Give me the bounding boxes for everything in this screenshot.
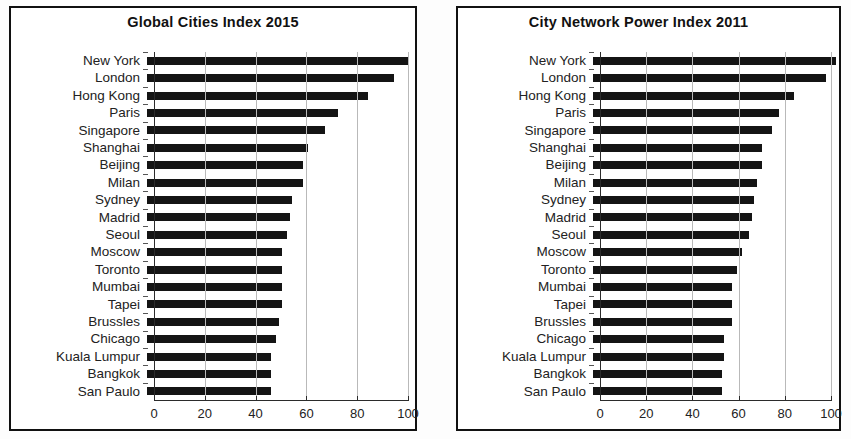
bar — [147, 161, 303, 169]
x-tick-mark — [831, 396, 832, 401]
bar-row: Bangkok — [10, 365, 416, 382]
category-label: Paris — [456, 106, 593, 120]
bar-row: Brussles — [10, 313, 416, 330]
bar-track — [593, 348, 841, 365]
bar — [593, 161, 762, 169]
bar — [147, 266, 282, 274]
y-tick-mark — [143, 243, 148, 244]
bar-row: Madrid — [456, 209, 841, 226]
y-tick-mark — [143, 313, 148, 314]
bar-row: Hong Kong — [10, 87, 416, 104]
bar — [147, 387, 271, 395]
bar — [593, 196, 754, 204]
bar-track — [593, 191, 841, 208]
bar-row: Singapore — [10, 122, 416, 139]
category-label: Madrid — [10, 211, 147, 225]
bar — [147, 370, 271, 378]
x-tick-labels: 020406080100 — [600, 406, 831, 426]
bar — [593, 387, 722, 395]
x-axis-line — [154, 400, 408, 401]
bar-row: Kuala Lumpur — [456, 348, 841, 365]
bar-track — [593, 261, 841, 278]
bar-track — [593, 383, 841, 400]
y-tick-mark — [143, 278, 148, 279]
x-tick-mark — [306, 396, 307, 401]
y-tick-mark — [589, 52, 594, 53]
x-tick-mark — [692, 396, 693, 401]
y-tick-mark — [589, 87, 594, 88]
y-tick-mark — [589, 174, 594, 175]
bar — [593, 109, 779, 117]
y-tick-mark — [589, 139, 594, 140]
x-tick-mark — [357, 396, 358, 401]
category-label: Hong Kong — [456, 89, 593, 103]
chart-title: City Network Power Index 2011 — [426, 14, 851, 30]
bar-track — [593, 87, 841, 104]
bar-row: Milan — [456, 174, 841, 191]
chart-panel-city-network-power-index: City Network Power Index 2011 New YorkLo… — [426, 0, 851, 439]
bar — [593, 126, 772, 134]
bar-row: Beijing — [456, 156, 841, 173]
category-label: Mumbai — [456, 280, 593, 294]
category-label: Chicago — [10, 332, 147, 346]
bar-row: Brussles — [456, 313, 841, 330]
bar — [147, 196, 292, 204]
bar-track — [147, 139, 416, 156]
bar — [147, 300, 282, 308]
category-label: Toronto — [10, 263, 147, 277]
y-tick-mark — [143, 331, 148, 332]
y-tick-mark — [143, 365, 148, 366]
bar — [593, 144, 762, 152]
bar-track — [147, 243, 416, 260]
bar-track — [593, 156, 841, 173]
bar — [593, 57, 836, 65]
bar — [147, 92, 368, 100]
x-tick-label: 40 — [248, 406, 262, 421]
y-tick-mark — [143, 296, 148, 297]
bar-track — [593, 209, 841, 226]
bar-row: San Paulo — [10, 383, 416, 400]
category-label: Seoul — [10, 228, 147, 242]
bar-rows: New YorkLondonHong KongParisSingaporeSha… — [456, 52, 841, 400]
bar-track — [147, 122, 416, 139]
bar-row: Mumbai — [10, 278, 416, 295]
y-tick-mark — [589, 69, 594, 70]
category-label: Singapore — [456, 124, 593, 138]
x-tick-mark — [600, 396, 601, 401]
bar — [147, 248, 282, 256]
bar-track — [147, 278, 416, 295]
bar-row: Tapei — [10, 296, 416, 313]
y-tick-mark — [589, 383, 594, 384]
category-label: Paris — [10, 106, 147, 120]
bar-row: Singapore — [456, 122, 841, 139]
bar-row: Tapei — [456, 296, 841, 313]
bar-row: Hong Kong — [456, 87, 841, 104]
bar-track — [593, 174, 841, 191]
two-chart-figure: Global Cities Index 2015 New YorkLondonH… — [0, 0, 851, 439]
category-label: Kuala Lumpur — [456, 350, 593, 364]
x-tick-label: 80 — [778, 406, 792, 421]
y-tick-mark — [143, 52, 148, 53]
y-tick-mark — [143, 261, 148, 262]
y-tick-mark — [589, 209, 594, 210]
bar-track — [147, 209, 416, 226]
bar — [593, 283, 732, 291]
bar — [147, 353, 271, 361]
y-tick-mark — [589, 296, 594, 297]
bar-track — [147, 104, 416, 121]
bar-track — [147, 191, 416, 208]
category-label: Shanghai — [456, 141, 593, 155]
bar-row: New York — [456, 52, 841, 69]
bar-track — [147, 313, 416, 330]
bar-row: Moscow — [10, 243, 416, 260]
x-tick-label: 0 — [596, 406, 603, 421]
bar-track — [147, 174, 416, 191]
bar-row: Shanghai — [10, 139, 416, 156]
bar-track — [593, 365, 841, 382]
bar-row: Sydney — [10, 191, 416, 208]
category-label: Singapore — [10, 124, 147, 138]
category-label: Mumbai — [10, 280, 147, 294]
x-tick-mark — [205, 396, 206, 401]
x-tick-mark — [646, 396, 647, 401]
bar-track — [593, 296, 841, 313]
